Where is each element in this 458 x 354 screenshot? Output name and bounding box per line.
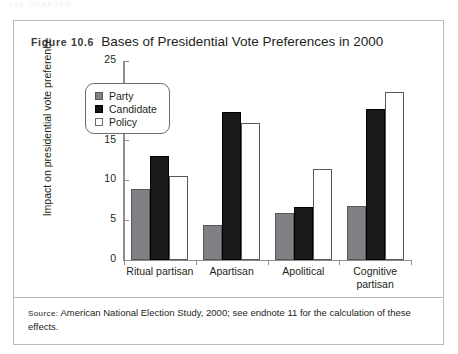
y-tick-label: 10 (88, 172, 116, 184)
y-tick-label: 15 (88, 133, 116, 145)
chart-plot-area: Impact on presidential vote preference 0… (14, 21, 443, 297)
y-axis-label: Impact on presidential vote preference (41, 32, 53, 222)
running-header: 148 CHAPTER (8, 0, 208, 10)
legend-item-policy: Policy (95, 115, 157, 128)
bar-group (268, 61, 340, 260)
bar-group (196, 61, 268, 260)
x-axis-label: Apolitical (268, 265, 340, 290)
legend-item-candidate: Candidate (95, 102, 157, 115)
legend-item-party: Party (95, 89, 157, 102)
bar-party (275, 213, 294, 260)
figure-container: Figure 10.6Bases of Presidential Vote Pr… (13, 20, 444, 345)
bar-policy (313, 169, 332, 260)
x-axis-label: Ritual partisan (124, 265, 196, 290)
y-tick-label: 25 (88, 53, 116, 65)
bar-group (339, 61, 411, 260)
source-label: Source: (28, 309, 58, 318)
legend-swatch-party-icon (95, 92, 103, 100)
chart-legend: Party Candidate Policy (85, 83, 170, 134)
source-divider (14, 297, 443, 298)
source-text: American National Election Study, 2000; … (28, 307, 411, 332)
bar-candidate (150, 156, 169, 260)
x-axis-label-line: partisan (339, 278, 411, 291)
bar-party (347, 206, 366, 260)
bar-policy (385, 92, 404, 260)
x-axis-label-line: Ritual partisan (124, 265, 196, 278)
x-tick-mark (411, 260, 412, 265)
legend-label-candidate: Candidate (109, 103, 157, 115)
source-note: Source: American National Election Study… (28, 307, 428, 333)
x-axis-label-line: Cognitive (339, 265, 411, 278)
legend-label-party: Party (109, 90, 134, 102)
bar-policy (241, 123, 260, 260)
legend-swatch-policy-icon (95, 118, 103, 126)
bar-party (131, 189, 150, 260)
x-axis-label: Cognitivepartisan (339, 265, 411, 290)
bar-candidate (222, 112, 241, 260)
bar-candidate (294, 207, 313, 260)
legend-swatch-candidate-icon (95, 105, 103, 113)
x-axis-label-line: Apolitical (268, 265, 340, 278)
bar-policy (169, 176, 188, 260)
x-axis-labels: Ritual partisanApartisanApoliticalCognit… (124, 265, 411, 290)
figure-page: 148 CHAPTER Figure 10.6Bases of Presiden… (0, 0, 458, 354)
x-axis-label-line: Apartisan (196, 265, 268, 278)
legend-label-policy: Policy (109, 116, 137, 128)
y-tick-label: 5 (88, 212, 116, 224)
bar-candidate (366, 109, 385, 260)
x-axis-label: Apartisan (196, 265, 268, 290)
bar-party (203, 225, 222, 260)
y-tick-label: 0 (88, 252, 116, 264)
